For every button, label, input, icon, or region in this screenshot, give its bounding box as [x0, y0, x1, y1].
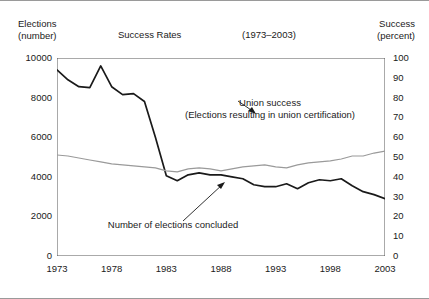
left-axis-tick-label: 10000	[8, 52, 52, 63]
right-axis-tick-label: 100	[393, 52, 425, 63]
right-axis-title: Success (percent)	[377, 18, 415, 41]
annotation-union-success: Union success (Elections resulting in un…	[150, 97, 390, 121]
series-line-1	[57, 66, 385, 199]
elections-leader-line	[183, 184, 223, 221]
right-axis-tick-label: 70	[393, 111, 425, 122]
left-axis-tick-label: 4000	[8, 171, 52, 182]
figure-container: Elections (number) Success Rates (1973–2…	[0, 0, 429, 299]
x-axis-tick-label: 2003	[363, 263, 407, 274]
left-axis-tick-label: 6000	[8, 131, 52, 142]
chart-title: Success Rates	[118, 29, 181, 41]
left-axis-tick-label: 8000	[8, 92, 52, 103]
right-axis-tick-label: 20	[393, 210, 425, 221]
right-axis-tick-label: 50	[393, 151, 425, 162]
left-axis-title: Elections (number)	[18, 18, 57, 41]
x-axis-tick-label: 1973	[35, 263, 79, 274]
right-axis-tick-label: 90	[393, 72, 425, 83]
x-axis-tick-label: 1998	[308, 263, 352, 274]
left-axis-tick-label: 0	[8, 250, 52, 261]
series-line-2	[57, 151, 385, 172]
chart-period: (1973–2003)	[242, 29, 296, 41]
x-axis-tick-label: 1988	[199, 263, 243, 274]
series-group	[57, 66, 385, 199]
annotation-elections-concluded: Number of elections concluded	[78, 219, 268, 231]
x-axis-tick-label: 1993	[254, 263, 298, 274]
x-axis-tick-label: 1978	[90, 263, 134, 274]
right-axis-tick-label: 10	[393, 230, 425, 241]
left-axis-tick-label: 2000	[8, 210, 52, 221]
right-axis-tick-label: 40	[393, 171, 425, 182]
right-axis-tick-label: 30	[393, 191, 425, 202]
x-axis-tick-label: 1983	[144, 263, 188, 274]
right-axis-tick-label: 60	[393, 131, 425, 142]
right-axis-tick-label: 80	[393, 92, 425, 103]
right-axis-tick-label: 0	[393, 250, 425, 261]
